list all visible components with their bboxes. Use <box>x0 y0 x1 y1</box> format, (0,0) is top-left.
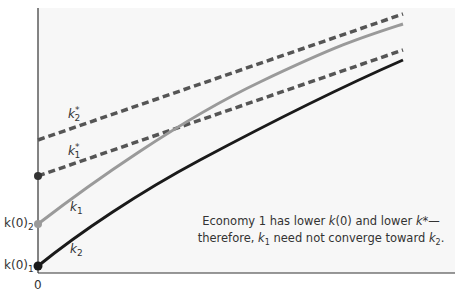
annotation-note: Economy 1 has lower k(0) and lower k*— t… <box>196 213 446 251</box>
annotation-line-1: Economy 1 has lower k(0) and lower k*— <box>196 213 446 230</box>
k0-2-dot <box>34 220 42 228</box>
origin-label: 0 <box>34 278 42 292</box>
k0-1-tick-label: k(0)1 <box>4 258 34 274</box>
annotation-line-2: therefore, k1 need not converge toward k… <box>196 230 446 251</box>
k0-1-dot <box>34 262 43 271</box>
k2-label: k2 <box>70 242 83 258</box>
k1-star-label: k*1 <box>68 142 80 160</box>
k2-star-label: k*2 <box>68 105 80 123</box>
k1-label: k1 <box>70 200 83 216</box>
k1-star-intercept-dot <box>34 172 42 180</box>
k0-2-tick-label: k(0)2 <box>4 216 34 232</box>
